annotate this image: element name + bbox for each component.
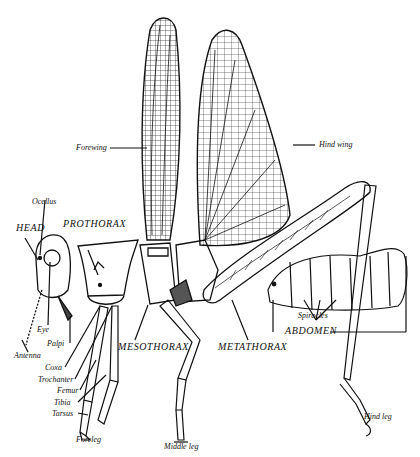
label-eye: Eye: [37, 326, 49, 334]
label-foreleg: Foreleg: [76, 436, 101, 444]
label-abdomen: ABDOMEN: [285, 326, 337, 336]
thorax-shape: [140, 240, 218, 306]
hind-wing-shape: [197, 30, 290, 245]
abdomen-shape: [268, 249, 407, 310]
label-coxa: Coxa: [45, 364, 62, 372]
label-middle-leg: Middle leg: [164, 443, 198, 451]
middle-leg-shape: [160, 300, 200, 442]
label-hind-leg: Hind leg: [364, 413, 392, 421]
label-trochanter: Trochanter: [38, 376, 73, 384]
label-palpi: Palpi: [47, 340, 64, 348]
label-femur: Femur: [57, 387, 78, 395]
label-mesothorax: MESOTHORAX: [118, 342, 189, 352]
label-forewing: Forewing: [76, 144, 107, 152]
label-head: HEAD: [16, 223, 45, 233]
forewing-shape: [142, 18, 180, 240]
label-hind-wing: Hind wing: [319, 141, 353, 149]
label-ocellus: Ocellus: [32, 198, 56, 206]
label-tibia: Tibia: [54, 399, 70, 407]
label-prothorax: PROTHORAX: [63, 219, 126, 229]
label-antenna: Antenna: [14, 352, 41, 360]
label-spiracles: Spiracles: [298, 312, 328, 320]
label-metathorax: METATHORAX: [218, 342, 287, 352]
foreleg-shape: [80, 306, 118, 440]
prothorax-shape: [78, 240, 138, 304]
label-tarsus: Tarsus: [52, 410, 73, 418]
